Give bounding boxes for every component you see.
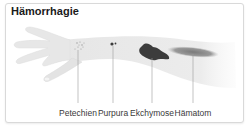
label-haematom: Hämatom bbox=[175, 108, 212, 118]
hand-shape bbox=[14, 27, 70, 66]
label-ekchymose: Ekchymose bbox=[130, 108, 174, 118]
label-petechien: Petechien bbox=[59, 108, 97, 118]
label-purpura: Purpura bbox=[98, 108, 128, 118]
thumbnail-shape bbox=[45, 78, 50, 81]
